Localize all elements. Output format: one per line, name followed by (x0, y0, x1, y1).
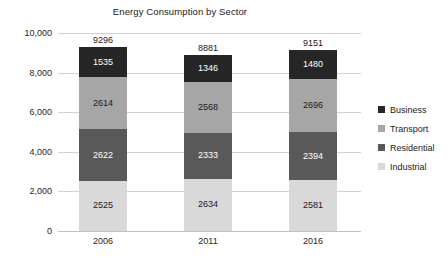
bar-segment-business[interactable]: 1480 (289, 50, 337, 79)
y-axis-tick-label: 8,000 (0, 68, 52, 78)
bar-segment-value: 2333 (198, 151, 218, 160)
bar-segment-value: 2634 (198, 200, 218, 209)
bar-segment-transport[interactable]: 2568 (184, 82, 232, 133)
legend-label: Residential (390, 143, 435, 153)
legend-swatch-icon (378, 163, 385, 170)
y-axis-tick-label: 0 (0, 226, 52, 236)
y-axis-tick-label: 6,000 (0, 107, 52, 117)
bar-segment-value: 2622 (93, 151, 113, 160)
bar-segment-value: 1535 (93, 58, 113, 67)
y-axis-tick-label: 10,000 (0, 28, 52, 38)
x-axis-tick-label: 2006 (93, 236, 113, 246)
x-axis-tick-label: 2011 (198, 236, 217, 246)
plot-area: 9296153526142622252588811346256823332634… (58, 33, 361, 231)
bar-stack: 1346256823332634 (184, 55, 232, 231)
stacked-bar-chart: Energy Consumption by Sector 02,0004,000… (0, 0, 448, 258)
bar-segment-value: 1346 (198, 64, 218, 73)
bar-segment-industrial[interactable]: 2634 (184, 179, 232, 231)
x-axis-tick-label: 2016 (303, 236, 323, 246)
legend-item-industrial[interactable]: Industrial (378, 157, 448, 176)
bar-stack: 1535261426222525 (79, 47, 127, 231)
bars-layer: 9296153526142622252588811346256823332634… (58, 33, 361, 231)
bar-column[interactable]: 88811346256823332634 (184, 55, 232, 231)
y-axis: 02,0004,0006,0008,00010,000 (0, 33, 52, 231)
bar-total-label: 9151 (303, 38, 323, 48)
bar-segment-value: 2525 (93, 201, 113, 210)
legend-label: Industrial (390, 162, 427, 172)
bar-segment-value: 2568 (198, 103, 218, 112)
bar-segment-residential[interactable]: 2394 (289, 132, 337, 179)
legend-item-residential[interactable]: Residential (378, 138, 448, 157)
chart-title: Energy Consumption by Sector (0, 6, 360, 17)
legend-item-transport[interactable]: Transport (378, 119, 448, 138)
legend-swatch-icon (378, 106, 385, 113)
bar-segment-value: 2614 (93, 99, 113, 108)
y-axis-tick-label: 4,000 (0, 147, 52, 157)
bar-segment-value: 2581 (303, 201, 323, 210)
y-axis-tick-label: 2,000 (0, 186, 52, 196)
bar-total-label: 9296 (93, 35, 113, 45)
bar-segment-industrial[interactable]: 2581 (289, 180, 337, 231)
bar-segment-value: 2394 (303, 152, 323, 161)
x-axis: 200620112016 (58, 231, 361, 253)
bar-segment-value: 2696 (303, 101, 323, 110)
bar-segment-industrial[interactable]: 2525 (79, 181, 127, 231)
legend-item-business[interactable]: Business (378, 100, 448, 119)
legend-label: Business (390, 105, 427, 115)
bar-column[interactable]: 91511480269623942581 (289, 50, 337, 231)
bar-segment-business[interactable]: 1535 (79, 47, 127, 77)
bar-segment-transport[interactable]: 2696 (289, 79, 337, 132)
bar-segment-value: 1480 (303, 60, 323, 69)
legend-swatch-icon (378, 125, 385, 132)
bar-segment-business[interactable]: 1346 (184, 55, 232, 82)
legend-swatch-icon (378, 144, 385, 151)
chart-legend: BusinessTransportResidentialIndustrial (378, 100, 448, 176)
bar-segment-residential[interactable]: 2333 (184, 133, 232, 179)
bar-segment-residential[interactable]: 2622 (79, 129, 127, 181)
bar-stack: 1480269623942581 (289, 50, 337, 231)
bar-total-label: 8881 (198, 43, 218, 53)
bar-segment-transport[interactable]: 2614 (79, 77, 127, 129)
bar-column[interactable]: 92961535261426222525 (79, 47, 127, 231)
legend-label: Transport (390, 124, 428, 134)
